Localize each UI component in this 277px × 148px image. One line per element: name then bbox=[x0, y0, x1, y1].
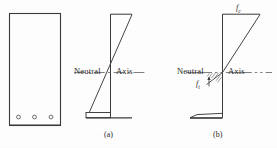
reinforcing-bar bbox=[33, 115, 37, 119]
diagram-a-axis-label: Axis bbox=[116, 67, 133, 76]
diagram-b-steel-force-block bbox=[190, 113, 223, 118]
hatch-line bbox=[207, 73, 209, 76]
compression-stress-subscript: c bbox=[238, 8, 240, 14]
diagram-a-neutral-label: Neutral bbox=[74, 67, 101, 76]
figure-root: Neutral Axis (a) Neutral Axis fc ft (b) bbox=[0, 0, 277, 148]
compression-stress-label: fc bbox=[236, 4, 241, 14]
reinforcing-bar bbox=[17, 115, 21, 119]
diagram-b-caption: (b) bbox=[213, 131, 222, 139]
hatch-line bbox=[209, 73, 212, 77]
diagram-b-axis-label: Axis bbox=[228, 67, 245, 76]
tension-stress-label: ft bbox=[196, 80, 200, 90]
diagram-b-compression-diagonal bbox=[223, 15, 261, 73]
beam-cross-section bbox=[10, 14, 61, 126]
cross-section-outline bbox=[10, 14, 61, 126]
tension-stress-subscript: t bbox=[198, 84, 200, 90]
diagram-b-neutral-label: Neutral bbox=[177, 67, 204, 76]
tension-arrow-head bbox=[207, 76, 210, 80]
diagram-a-caption: (a) bbox=[104, 131, 113, 139]
diagram-a-steel-force-block bbox=[86, 113, 111, 118]
reinforcing-bar bbox=[49, 115, 53, 119]
